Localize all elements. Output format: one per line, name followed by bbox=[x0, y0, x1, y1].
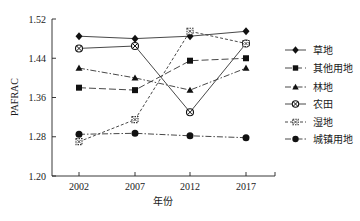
series-line bbox=[79, 31, 246, 38]
legend-label: 农田 bbox=[313, 98, 333, 110]
circle-marker bbox=[292, 136, 298, 142]
diamond-marker bbox=[132, 35, 139, 43]
legend: 草地其他用地林地农田湿地城镇用地 bbox=[285, 44, 353, 145]
diamond-marker bbox=[292, 46, 298, 53]
x-tick-label: 2012 bbox=[180, 181, 200, 192]
x-tick-label: 2002 bbox=[69, 181, 89, 192]
x-tick-label: 2017 bbox=[236, 181, 256, 192]
y-tick-label: 1.20 bbox=[29, 171, 47, 182]
axes: 1.201.281.361.441.522002200720122017 bbox=[29, 14, 276, 193]
legend-item: 其他用地 bbox=[285, 62, 353, 74]
legend-item: 城镇用地 bbox=[285, 133, 353, 145]
circle-x-marker bbox=[132, 42, 139, 49]
x-tick-label: 2007 bbox=[125, 181, 145, 192]
legend-label: 林地 bbox=[313, 81, 333, 93]
series-农田 bbox=[76, 40, 250, 116]
square-x-marker bbox=[187, 28, 193, 34]
square-x-marker bbox=[243, 41, 249, 47]
triangle-marker bbox=[76, 65, 83, 71]
diamond-marker bbox=[76, 32, 83, 40]
diamond-marker bbox=[243, 27, 250, 35]
circle-x-marker bbox=[76, 45, 83, 52]
legend-label: 其他用地 bbox=[313, 62, 353, 74]
series-lines bbox=[76, 27, 250, 144]
legend-item: 草地 bbox=[285, 44, 333, 56]
x-axis-title: 年份 bbox=[153, 195, 173, 207]
circle-marker bbox=[243, 134, 250, 141]
series-line bbox=[79, 133, 246, 137]
square-marker bbox=[243, 55, 249, 61]
legend-label: 湿地 bbox=[313, 116, 333, 128]
circle-marker bbox=[76, 131, 83, 138]
legend-item: 湿地 bbox=[285, 116, 333, 128]
series-其他用地 bbox=[76, 55, 249, 93]
triangle-marker bbox=[187, 87, 194, 93]
triangle-marker bbox=[243, 65, 250, 71]
legend-item: 农田 bbox=[285, 98, 333, 110]
square-marker bbox=[187, 58, 193, 64]
square-marker bbox=[76, 85, 82, 91]
series-湿地 bbox=[76, 28, 249, 144]
series-城镇用地 bbox=[76, 130, 250, 141]
circle-x-marker bbox=[292, 101, 298, 107]
circle-marker bbox=[187, 132, 194, 139]
square-marker bbox=[293, 65, 298, 70]
square-marker bbox=[132, 87, 138, 93]
square-x-marker bbox=[293, 119, 298, 124]
square-x-marker bbox=[76, 139, 82, 145]
square-x-marker bbox=[132, 117, 138, 123]
pafrac-line-chart: 1.201.281.361.441.522002200720122017 草地其… bbox=[0, 0, 360, 221]
circle-x-marker bbox=[187, 109, 194, 116]
series-line bbox=[79, 31, 246, 141]
series-草地 bbox=[76, 27, 250, 42]
y-axis-title: PAFRAC bbox=[9, 78, 20, 116]
circle-marker bbox=[132, 130, 139, 137]
y-tick-label: 1.36 bbox=[29, 92, 47, 103]
legend-label: 草地 bbox=[313, 44, 333, 56]
legend-label: 城镇用地 bbox=[313, 133, 353, 145]
legend-item: 林地 bbox=[285, 81, 333, 93]
y-tick-label: 1.28 bbox=[29, 131, 47, 142]
y-tick-label: 1.44 bbox=[29, 53, 47, 64]
y-tick-label: 1.52 bbox=[29, 14, 47, 25]
